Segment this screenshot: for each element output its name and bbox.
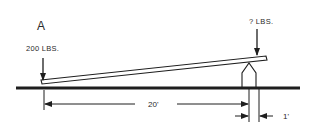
- distance-1-label: 1': [283, 112, 289, 121]
- lever-plank: [41, 56, 267, 84]
- lever-diagram: A 200 LBS. ? LBS. 20' 1': [0, 0, 318, 126]
- distance-20-label: 20': [148, 100, 159, 109]
- right-load-label: ? LBS.: [249, 17, 273, 26]
- left-load-label: 200 LBS.: [26, 44, 59, 53]
- ground-line: [16, 87, 300, 90]
- fulcrum-support: [242, 63, 256, 87]
- point-label-a: A: [37, 19, 45, 33]
